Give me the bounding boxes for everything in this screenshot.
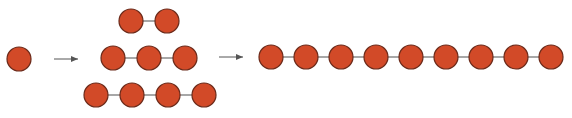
chain-node — [259, 45, 283, 69]
chain-node — [119, 9, 143, 33]
chain-node — [192, 83, 216, 107]
chain-node — [364, 45, 388, 69]
chain-stage-1-length-1 — [7, 47, 31, 71]
chain-node — [434, 45, 458, 69]
chain-growth-diagram — [0, 0, 572, 118]
chain-node — [173, 46, 197, 70]
chain-node — [101, 46, 125, 70]
chain-node — [329, 45, 353, 69]
chain-node — [7, 47, 31, 71]
chain-node — [399, 45, 423, 69]
chain-stage-2-length-3 — [101, 46, 197, 70]
chain-node — [539, 45, 563, 69]
chain-node — [137, 46, 161, 70]
chain-node — [504, 45, 528, 69]
chain-node — [469, 45, 493, 69]
chain-node — [155, 9, 179, 33]
chain-node — [294, 45, 318, 69]
chain-node — [84, 83, 108, 107]
nodes-layer — [7, 9, 563, 107]
chain-node — [156, 83, 180, 107]
chain-node — [120, 83, 144, 107]
chain-stage-3-length-9 — [259, 45, 563, 69]
